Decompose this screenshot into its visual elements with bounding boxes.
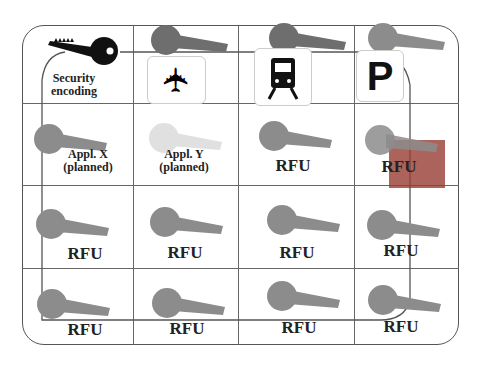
key-icon [266, 280, 346, 316]
airplane-icon-box: ✈ [147, 56, 206, 104]
train-icon [255, 49, 311, 105]
key-icon [366, 209, 446, 245]
key-icon [36, 288, 116, 324]
cell-rfu: RFU [368, 158, 430, 177]
security-encoding-label: Security encoding [44, 72, 104, 98]
security-key-icon [48, 33, 123, 73]
cell-rfu: RFU [366, 242, 436, 261]
key-icon [149, 206, 229, 242]
diagram: Security encoding ✈ P Appl. X(planned) A… [0, 0, 487, 366]
key-icon [266, 204, 346, 240]
cell-rfu: RFU [152, 320, 222, 339]
cell-rfu: RFU [258, 157, 328, 176]
cell-rfu: RFU [262, 244, 332, 263]
cell-rfu: RFU [50, 321, 120, 340]
airplane-icon: ✈ [154, 52, 200, 109]
label-line: encoding [51, 84, 97, 98]
train-icon-box [254, 48, 312, 106]
cell-appl-x: Appl. X(planned) [48, 148, 128, 174]
parking-icon: P [357, 51, 403, 101]
key-icon [35, 208, 115, 244]
cell-rfu: RFU [264, 319, 334, 338]
cell-appl-y: Appl. Y(planned) [148, 148, 220, 174]
label-line: Security [53, 71, 96, 85]
key-icon [367, 284, 447, 320]
cell-rfu: RFU [366, 318, 436, 337]
key-icon [258, 120, 338, 156]
cell-rfu: RFU [50, 245, 120, 264]
key-icon [364, 124, 444, 160]
cell-rfu: RFU [150, 244, 220, 263]
key-icon [151, 287, 231, 323]
parking-icon-box: P [356, 50, 404, 102]
